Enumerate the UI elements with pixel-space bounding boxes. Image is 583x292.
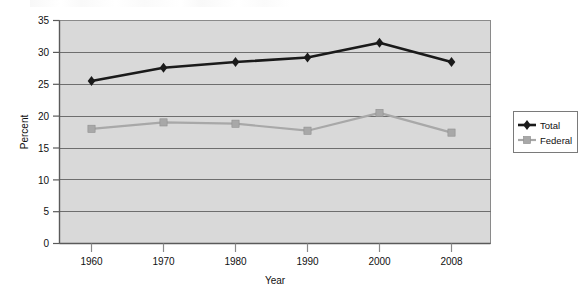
marker-federal-2000 — [376, 109, 383, 116]
legend-box — [514, 112, 578, 153]
x-tick-label-1970: 1970 — [152, 256, 175, 267]
x-tick-label-2008: 2008 — [440, 256, 463, 267]
x-axis-ticks — [92, 244, 452, 253]
line-chart-figure: 35 30 25 20 15 10 5 0 1960 1970 1980 199… — [0, 0, 583, 292]
legend-item-federal[interactable]: Federal — [518, 135, 572, 146]
y-tick-label-5: 5 — [43, 206, 49, 217]
y-tick-label-0: 0 — [43, 238, 49, 249]
legend-label-total: Total — [540, 120, 560, 131]
x-tick-label-1990: 1990 — [296, 256, 319, 267]
x-tick-label-2000: 2000 — [368, 256, 391, 267]
y-tick-label-20: 20 — [38, 111, 50, 122]
chart-legend: Total Federal — [514, 112, 578, 153]
y-axis-title: Percent — [19, 115, 30, 150]
y-tick-label-30: 30 — [38, 47, 50, 58]
x-tick-label-1980: 1980 — [224, 256, 247, 267]
marker-federal-1970 — [160, 119, 167, 126]
x-axis-title: Year — [265, 275, 286, 286]
legend-marker-federal-icon — [523, 136, 530, 143]
y-tick-label-25: 25 — [38, 79, 50, 90]
chart-plot-svg: 35 30 25 20 15 10 5 0 1960 1970 1980 199… — [0, 0, 583, 292]
marker-federal-1980 — [232, 120, 239, 127]
y-tick-label-10: 10 — [38, 175, 50, 186]
x-tick-label-1960: 1960 — [80, 256, 103, 267]
y-tick-label-35: 35 — [38, 15, 50, 26]
marker-federal-2008 — [448, 129, 455, 136]
y-tick-label-15: 15 — [38, 143, 50, 154]
y-axis-ticks — [53, 21, 60, 244]
legend-label-federal: Federal — [540, 135, 572, 146]
marker-federal-1990 — [304, 127, 311, 134]
marker-federal-1960 — [88, 125, 95, 132]
